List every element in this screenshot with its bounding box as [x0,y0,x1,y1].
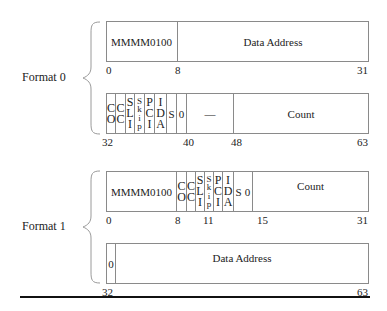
flag-s: S [167,94,177,133]
field-opcode: MMMM0100 [107,22,178,61]
bit-tick: 31 [357,214,368,226]
flag-sli: SLI [196,172,205,211]
bit-tick: 11 [203,214,214,226]
field-count: Count [234,94,368,133]
flag-sli: SLI [126,94,135,133]
flag-cc: CC [187,172,196,211]
flag-s: S [234,172,243,211]
bit-tick: 31 [357,64,368,76]
bit-tick: 0 [106,64,112,76]
flag-skip: Skip [205,172,214,211]
format-0-label: Format 0 [22,70,66,85]
bit-tick: 15 [257,214,268,226]
flag-co: CO [177,172,187,211]
field-zero: 0 [243,172,253,211]
field-zero: 0 [107,244,116,283]
bit-tick: 8 [175,214,181,226]
bottom-rule [20,296,370,298]
flag-pci: PCI [214,172,223,211]
field-count: Count [253,172,368,211]
brace-format-0 [82,21,102,135]
flag-skip: Skip [135,94,145,133]
brace-format-1 [82,170,102,284]
bit-tick: 40 [183,136,194,148]
format-0-word-0: MMMM0100 Data Address [106,21,369,62]
format-1-word-0: MMMM0100 CO CC SLI Skip PCI IDA S 0 Coun… [106,171,369,212]
flag-co: CO [107,94,116,133]
flag-pci: PCI [145,94,155,133]
bit-tick: 0 [106,214,112,226]
format-1-word-1: 0 Data Address [106,243,369,284]
bit-tick: 48 [231,136,242,148]
bit-tick: 8 [175,64,181,76]
format-1-label: Format 1 [22,219,66,234]
flag-cc: CC [116,94,126,133]
field-unused: — [187,94,234,133]
bit-tick: 63 [357,136,368,148]
flag-ida: IDA [155,94,167,133]
field-data-address: Data Address [178,22,368,61]
field-opcode: MMMM0100 [107,172,177,211]
field-data-address: Data Address [116,244,368,283]
field-zero: 0 [177,94,187,133]
bit-tick: 32 [102,136,113,148]
flag-ida: IDA [223,172,234,211]
format-0-word-1: CO CC SLI Skip PCI IDA S 0 — Count [106,93,369,134]
